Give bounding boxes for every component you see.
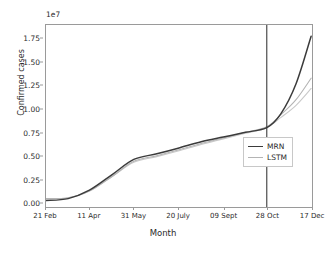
y-axis-tick-mark <box>40 132 43 133</box>
y-axis-tick-label: 1.25 <box>23 81 40 90</box>
x-axis-tick-label: 31 May <box>121 212 147 220</box>
x-axis-title: Month <box>0 228 326 238</box>
legend-label: MRN <box>267 143 284 151</box>
plot-area <box>45 24 313 208</box>
x-axis-tick-label: 28 Oct <box>256 212 279 220</box>
y-axis-tick-mark <box>40 203 43 204</box>
y-axis-tick-label: 0.25 <box>23 175 40 184</box>
x-axis-tick-label: 21 Feb <box>33 212 57 220</box>
covid-forecast-chart: 1e7 0.000.250.500.751.001.251.501.75 Con… <box>0 0 326 255</box>
y-axis-offset-text: 1e7 <box>46 10 60 19</box>
x-axis-tick-mark <box>312 207 313 210</box>
series-line-mrn <box>46 36 311 200</box>
y-axis-tick-mark <box>40 85 43 86</box>
y-axis-title: Confirmed cases <box>17 18 26 148</box>
x-axis-tick-mark <box>45 207 46 210</box>
y-axis-tick-mark <box>40 61 43 62</box>
y-axis-tick-label: 1.00 <box>23 104 40 113</box>
legend-swatch-icon <box>248 146 263 147</box>
x-axis-tick-mark <box>89 207 90 210</box>
y-axis-tick-mark <box>40 38 43 39</box>
chart-legend: MRNLSTM <box>243 137 293 167</box>
y-axis-tick-mark <box>40 108 43 109</box>
y-axis-tick-label: 1.75 <box>23 34 40 43</box>
y-axis-tick-mark <box>40 179 43 180</box>
series-lines <box>46 25 312 207</box>
y-axis-tick-label: 1.50 <box>23 57 40 66</box>
x-axis-tick-mark <box>133 207 134 210</box>
y-axis-tick-mark <box>40 156 43 157</box>
y-axis-tick-label: 0.00 <box>23 199 40 208</box>
legend-entry: LSTM <box>248 152 287 163</box>
x-axis-tick-mark <box>224 207 225 210</box>
legend-entry: MRN <box>248 141 287 152</box>
legend-swatch-icon <box>248 157 263 158</box>
legend-label: LSTM <box>267 154 287 162</box>
x-axis-tick-label: 11 Apr <box>77 212 100 220</box>
y-axis-tick-label: 0.75 <box>23 128 40 137</box>
x-axis-tick-label: 17 Dec <box>300 212 325 220</box>
x-axis-tick-label: 20 July <box>166 212 190 220</box>
y-axis-tick-label: 0.50 <box>23 152 40 161</box>
x-axis-tick-mark <box>178 207 179 210</box>
x-axis-tick-label: 09 Sept <box>210 212 237 220</box>
x-axis-tick-mark <box>267 207 268 210</box>
